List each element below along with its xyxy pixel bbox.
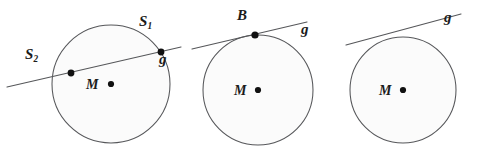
label-point-s2: S2 xyxy=(25,47,38,62)
intersection-point-s2 xyxy=(68,70,75,77)
label-point-s2-main: S xyxy=(25,46,33,62)
label-line-g-passant: g xyxy=(444,10,452,25)
center-dot-passant xyxy=(400,87,406,93)
label-point-s1-main: S xyxy=(139,13,147,29)
label-point-s1-sub: 1 xyxy=(148,21,153,31)
center-dot-tangent xyxy=(255,87,261,93)
label-point-b-main: B xyxy=(237,7,247,23)
label-line-g-secant: g xyxy=(159,52,167,67)
label-point-s2-sub: 2 xyxy=(34,54,39,64)
label-center-m-secant: M xyxy=(86,78,98,92)
label-line-g-tangent: g xyxy=(301,22,309,37)
center-dot-secant xyxy=(108,81,114,87)
label-point-b: B xyxy=(237,8,247,23)
panel-tangent xyxy=(192,22,313,145)
tangent-point-b xyxy=(251,31,258,38)
panel-passant xyxy=(346,14,461,143)
label-center-m-tangent: M xyxy=(234,84,246,98)
label-center-m-passant: M xyxy=(379,84,391,98)
label-point-s1: S1 xyxy=(139,14,152,29)
geometry-figure: S2 S1 g M B g M g M xyxy=(0,0,480,151)
